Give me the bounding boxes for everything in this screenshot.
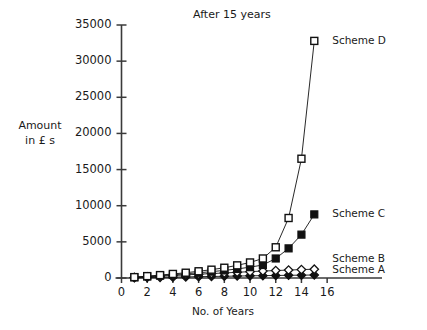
data-point bbox=[247, 259, 254, 266]
data-point bbox=[311, 211, 318, 218]
data-point bbox=[272, 255, 279, 262]
x-tick-label: 14 bbox=[289, 287, 313, 299]
data-point bbox=[182, 269, 189, 276]
data-point bbox=[272, 244, 279, 251]
data-point bbox=[285, 215, 292, 222]
y-tick-label: 20000 bbox=[56, 127, 112, 139]
series-label-scheme-d: Scheme D bbox=[332, 35, 386, 46]
series-label-scheme-b: Scheme B bbox=[332, 253, 385, 264]
data-point bbox=[311, 37, 318, 44]
y-tick-label: 0 bbox=[56, 272, 112, 284]
data-point bbox=[195, 268, 202, 275]
series-label-scheme-a: Scheme A bbox=[332, 264, 385, 275]
x-tick-label: 12 bbox=[264, 287, 288, 299]
x-tick-label: 2 bbox=[135, 287, 159, 299]
figure-caption bbox=[60, 318, 360, 328]
data-point bbox=[221, 264, 228, 271]
y-tick-label: 35000 bbox=[56, 19, 112, 31]
data-point bbox=[144, 273, 151, 280]
data-point bbox=[234, 262, 241, 269]
series-scheme-d bbox=[131, 37, 318, 280]
chart-figure: After 15 years Amount in £ s No. of Year… bbox=[0, 0, 427, 330]
x-tick-label: 4 bbox=[161, 287, 185, 299]
x-tick-label: 0 bbox=[110, 287, 134, 299]
y-tick-label: 25000 bbox=[56, 91, 112, 103]
y-tick-label: 5000 bbox=[56, 236, 112, 248]
x-tick-label: 8 bbox=[212, 287, 236, 299]
data-point bbox=[131, 274, 138, 281]
y-tick-label: 15000 bbox=[56, 164, 112, 176]
data-point bbox=[310, 265, 318, 273]
x-tick-label: 10 bbox=[238, 287, 262, 299]
data-point bbox=[297, 265, 305, 273]
data-point bbox=[208, 266, 215, 273]
data-point bbox=[284, 266, 292, 274]
series-line bbox=[134, 41, 314, 277]
x-tick-label: 6 bbox=[187, 287, 211, 299]
data-point bbox=[298, 231, 305, 238]
data-point bbox=[157, 272, 164, 279]
data-point bbox=[259, 255, 266, 262]
y-tick-label: 10000 bbox=[56, 200, 112, 212]
data-point bbox=[169, 270, 176, 277]
data-point bbox=[285, 245, 292, 252]
y-tick-label: 30000 bbox=[56, 55, 112, 67]
x-tick-label: 16 bbox=[315, 287, 339, 299]
series-label-scheme-c: Scheme C bbox=[332, 208, 385, 219]
data-point bbox=[298, 155, 305, 162]
